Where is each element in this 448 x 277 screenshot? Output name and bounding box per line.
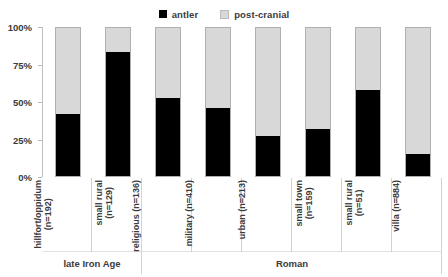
table-row[interactable] (55, 27, 81, 177)
x-axis-label-line1: military (n=410) (184, 180, 194, 246)
chart-legend: antler post-cranial (0, 6, 448, 22)
x-axis-category-small-rural-roman: small rural (n=51) (342, 178, 392, 252)
bar-slot (143, 27, 193, 177)
bar-segment-antler (256, 136, 280, 176)
x-axis-label-line1: small rural (94, 180, 104, 226)
legend-swatch-antler-icon (159, 10, 167, 18)
table-row[interactable] (155, 27, 181, 177)
bar-segment-antler (306, 129, 330, 176)
y-axis: 100% 75% 50% 25% 0% (0, 20, 38, 184)
table-row[interactable] (355, 27, 381, 177)
bar-slot (243, 27, 293, 177)
y-axis-label-75: 75% (13, 59, 32, 70)
y-axis-label-100: 100% (8, 22, 32, 33)
x-axis-category-hillfort-oppidum: hillfort/oppidum (n=192) (42, 178, 92, 252)
y-axis-label-25: 25% (13, 134, 32, 145)
x-axis-group-labels: late Iron Age Roman (42, 252, 442, 274)
plot-area (42, 27, 443, 177)
table-row[interactable] (305, 27, 331, 177)
bar-segment-antler (156, 98, 180, 176)
table-row[interactable] (255, 27, 281, 177)
x-axis-category-military: military (n=410) (192, 178, 242, 252)
y-axis-label-50: 50% (13, 97, 32, 108)
bar-segment-antler (56, 114, 80, 176)
x-axis-category-labels: hillfort/oppidum (n=192) small rural (n=… (42, 178, 442, 252)
legend-label-antler: antler (172, 9, 198, 20)
bar-slot (43, 27, 93, 177)
bar-segment-antler (406, 154, 430, 176)
bar-slot (343, 27, 393, 177)
x-axis-group-label: late Iron Age (63, 258, 120, 269)
x-axis-category-small-town: small town (n=159) (292, 178, 342, 252)
x-axis-label-line1: hillfort/oppidum (33, 180, 43, 248)
bar-slot (193, 27, 243, 177)
x-axis-group-label: Roman (276, 258, 308, 269)
legend-swatch-post-cranial-icon (220, 10, 229, 19)
x-axis-label-line2: (n=51) (354, 180, 364, 226)
x-axis-category-villa: villa (n=884) (392, 178, 442, 252)
table-row[interactable] (105, 27, 131, 177)
bar-segment-antler (206, 108, 230, 176)
x-axis-label-line1: religious (n=136) (131, 180, 141, 252)
x-axis-group-late-iron-age: late Iron Age (42, 252, 142, 274)
bar-segment-antler (356, 90, 380, 176)
x-axis-label-line2: (n=159) (304, 180, 314, 227)
table-row[interactable] (205, 27, 231, 177)
x-axis-category-urban: urban (n=213) (242, 178, 292, 252)
x-axis-group-roman: Roman (142, 252, 442, 274)
table-row[interactable] (405, 27, 431, 177)
x-axis-label-line1: small rural (344, 180, 354, 226)
x-axis-label-line2: (n=129) (104, 180, 114, 226)
legend-label-post-cranial: post-cranial (234, 9, 289, 20)
category-separator (441, 178, 442, 252)
x-axis-label-line2: (n=192) (43, 180, 53, 248)
stacked-bar-chart: antler post-cranial 100% 75% 50% 25% 0% (0, 0, 448, 277)
bar-series-container (43, 27, 443, 177)
legend-item-antler[interactable]: antler (159, 9, 198, 20)
bar-slot (93, 27, 143, 177)
x-axis-label-line1: villa (n=884) (391, 180, 401, 232)
legend-item-post-cranial[interactable]: post-cranial (220, 9, 289, 20)
y-axis-label-0: 0% (18, 172, 32, 183)
x-axis-label-line1: urban (n=213) (237, 180, 247, 239)
x-axis-label-line1: small town (294, 180, 304, 227)
bar-segment-antler (106, 52, 130, 176)
bar-slot (393, 27, 443, 177)
bar-slot (293, 27, 343, 177)
group-separator (441, 250, 442, 274)
